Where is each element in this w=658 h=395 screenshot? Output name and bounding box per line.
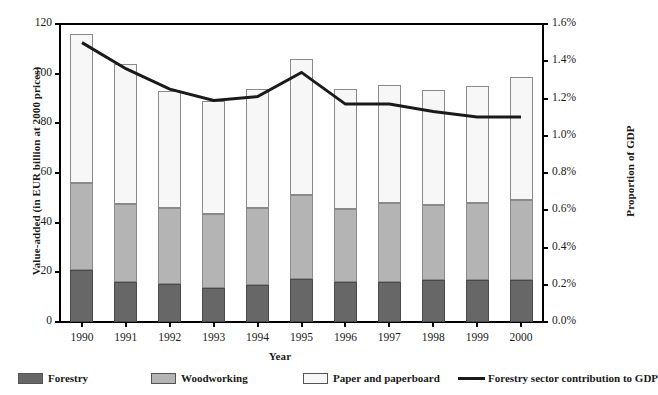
y-axis-left-tick: 80 — [12, 115, 52, 127]
x-axis-tick: 1991 — [103, 331, 149, 343]
tick-mark — [81, 322, 83, 327]
y-axis-right-tick: 1.2% — [552, 91, 598, 103]
tick-mark — [543, 98, 548, 100]
bar-segment-woodworking — [334, 209, 357, 282]
bar-segment-paper-and-paperboard — [114, 64, 137, 204]
stacked-bar — [202, 24, 225, 322]
bar-segment-woodworking — [246, 208, 269, 285]
bar-segment-forestry — [334, 282, 357, 322]
bar-segment-paper-and-paperboard — [378, 85, 401, 203]
bar-segment-forestry — [158, 284, 181, 322]
tick-mark — [55, 122, 60, 124]
tick-mark — [213, 322, 215, 327]
y-axis-right-tick: 0.4% — [552, 240, 598, 252]
bar-segment-forestry — [202, 288, 225, 322]
chart-legend: ForestryWoodworkingPaper and paperboardF… — [18, 370, 608, 386]
bar-segment-forestry — [510, 280, 533, 322]
tick-mark — [543, 284, 548, 286]
tick-mark — [520, 322, 522, 327]
legend-color-swatch — [18, 373, 43, 384]
legend-color-swatch — [151, 373, 176, 384]
tick-mark — [55, 271, 60, 273]
y-axis-right-tick: 0.8% — [552, 165, 598, 177]
tick-mark — [169, 322, 171, 327]
legend-color-swatch — [303, 373, 328, 384]
bar-segment-forestry — [378, 282, 401, 322]
y-axis-right-tick: 1.4% — [552, 53, 598, 65]
y-axis-right-tick: 0.6% — [552, 202, 598, 214]
stacked-bar — [510, 24, 533, 322]
legend-item[interactable]: Woodworking — [151, 370, 248, 386]
stacked-bar — [158, 24, 181, 322]
tick-mark — [543, 247, 548, 249]
tick-mark — [543, 321, 548, 323]
tick-mark — [543, 209, 548, 211]
y-axis-left-tick: 100 — [12, 66, 52, 78]
legend-label: Forestry — [48, 372, 88, 384]
x-axis-tick: 1999 — [454, 331, 500, 343]
tick-mark — [257, 322, 259, 327]
tick-mark — [476, 322, 478, 327]
bar-segment-forestry — [246, 285, 269, 322]
bar-segment-forestry — [114, 282, 137, 322]
tick-mark — [55, 172, 60, 174]
x-axis-tick: 1992 — [147, 331, 193, 343]
bar-segment-paper-and-paperboard — [70, 34, 93, 183]
bar-segment-paper-and-paperboard — [334, 89, 357, 209]
bar-segment-woodworking — [466, 203, 489, 280]
tick-mark — [543, 60, 548, 62]
y-axis-right-title: Proportion of GDP — [624, 46, 636, 296]
stacked-bar — [70, 24, 93, 322]
bar-segment-paper-and-paperboard — [510, 77, 533, 200]
tick-mark — [55, 73, 60, 75]
bar-segment-paper-and-paperboard — [466, 86, 489, 203]
stacked-bar — [246, 24, 269, 322]
stacked-bar — [422, 24, 445, 322]
y-axis-right-tick: 0.0% — [552, 314, 598, 326]
legend-item[interactable]: Paper and paperboard — [303, 370, 440, 386]
legend-label: Woodworking — [181, 372, 248, 384]
tick-mark — [55, 222, 60, 224]
x-axis-tick: 1995 — [279, 331, 325, 343]
bar-segment-paper-and-paperboard — [202, 101, 225, 214]
tick-mark — [55, 321, 60, 323]
y-axis-left-tick: 20 — [12, 264, 52, 276]
bar-segment-paper-and-paperboard — [290, 59, 313, 196]
x-axis-tick: 1993 — [191, 331, 237, 343]
bar-segment-forestry — [290, 279, 313, 322]
legend-label: Paper and paperboard — [333, 372, 440, 384]
bar-segment-woodworking — [202, 214, 225, 289]
tick-mark — [543, 135, 548, 137]
stacked-bar — [466, 24, 489, 322]
y-axis-left-tick: 0 — [12, 314, 52, 326]
bar-segment-woodworking — [422, 205, 445, 280]
tick-mark — [543, 23, 548, 25]
bar-segment-woodworking — [70, 183, 93, 270]
stacked-bar — [114, 24, 137, 322]
tick-mark — [388, 322, 390, 327]
stacked-bar — [378, 24, 401, 322]
plot-area — [60, 24, 543, 322]
legend-item[interactable]: Forestry — [18, 370, 88, 386]
bar-segment-woodworking — [510, 200, 533, 279]
tick-mark — [432, 322, 434, 327]
bar-segment-forestry — [422, 280, 445, 322]
x-axis-title: Year — [0, 350, 560, 362]
x-axis-tick: 2000 — [498, 331, 544, 343]
tick-mark — [301, 322, 303, 327]
legend-label: Forestry sector contribution to GDP — [488, 372, 658, 384]
legend-line-marker — [458, 377, 485, 380]
y-axis-left-tick: 120 — [12, 16, 52, 28]
x-axis-tick: 1994 — [235, 331, 281, 343]
legend-item[interactable]: Forestry sector contribution to GDP — [458, 370, 658, 386]
y-axis-right-tick: 1.0% — [552, 128, 598, 140]
bar-segment-paper-and-paperboard — [158, 91, 181, 208]
x-axis-tick: 1990 — [59, 331, 105, 343]
stacked-bar — [334, 24, 357, 322]
stacked-bar — [290, 24, 313, 322]
bar-segment-woodworking — [290, 195, 313, 278]
x-axis-tick: 1997 — [366, 331, 412, 343]
y-axis-left-tick: 40 — [12, 215, 52, 227]
tick-mark — [55, 23, 60, 25]
